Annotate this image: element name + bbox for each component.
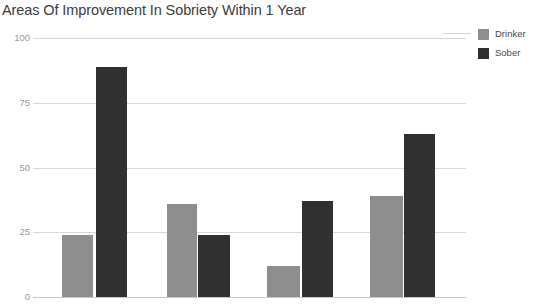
bar-group <box>33 38 466 297</box>
chart-container: Areas Of Improvement In Sobriety Within … <box>0 0 541 304</box>
y-axis-tick-label: 75 <box>0 98 30 108</box>
legend-item-label: Drinker <box>495 29 526 39</box>
gridline <box>33 297 466 298</box>
legend-leader-line <box>443 33 471 34</box>
y-axis-tick-label: 50 <box>0 163 30 173</box>
bar-sober-4[interactable] <box>404 134 435 297</box>
legend-item-sober[interactable]: Sober <box>478 47 540 59</box>
y-axis-tick-label: 100 <box>0 33 30 43</box>
legend-item-drinker[interactable]: Drinker <box>478 28 540 40</box>
bar-drinker-4[interactable] <box>370 196 403 297</box>
chart-legend: DrinkerSober <box>478 28 540 66</box>
plot-area: 1007550250 <box>33 38 466 297</box>
legend-swatch-icon <box>478 29 489 40</box>
y-axis-tick-label: 25 <box>0 227 30 237</box>
legend-item-label: Sober <box>495 48 520 58</box>
y-axis-tick-label: 0 <box>0 292 30 302</box>
chart-title: Areas Of Improvement In Sobriety Within … <box>2 2 306 18</box>
legend-swatch-icon <box>478 48 489 59</box>
